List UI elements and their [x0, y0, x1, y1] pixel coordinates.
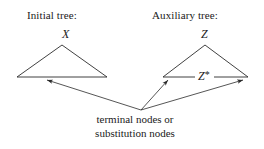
initial-tree-heading: Initial tree: [27, 10, 77, 21]
arrow-to-auxiliary-right-frontier [141, 80, 243, 110]
foot-node-label: Z* [196, 70, 212, 82]
foot-node-letter: Z [198, 69, 205, 83]
arrow-to-auxiliary-left-frontier [141, 80, 168, 110]
initial-root-node-label: X [62, 28, 69, 40]
auxiliary-root-node-label: Z [201, 28, 208, 40]
tag-tree-diagram: Initial tree: Auxiliary tree: X Z Z* ter… [0, 0, 264, 149]
foot-node-star-icon: * [205, 69, 210, 80]
auxiliary-tree-heading: Auxiliary tree: [152, 10, 218, 21]
caption-arrows [47, 80, 243, 110]
arrow-to-initial-frontier [47, 80, 141, 110]
initial-tree-triangle [17, 45, 107, 77]
caption-line-2: substitution nodes [55, 127, 215, 141]
caption-line-1: terminal nodes or [55, 113, 215, 127]
caption-block: terminal nodes or substitution nodes [55, 113, 215, 141]
